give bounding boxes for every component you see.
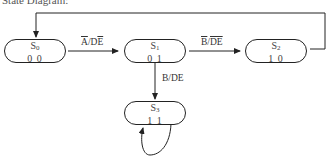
state-diagram: State Diagram: S0 0 0 S1 0 1 S2 1 0 S3 1…: [0, 0, 327, 156]
state-code: 0 0: [5, 53, 65, 64]
state-s3: S3 1 1: [124, 101, 186, 125]
state-subscript: 2: [277, 44, 281, 52]
transition-label-s0-s1: A/DE: [81, 37, 103, 47]
state-code: 1 0: [246, 53, 306, 64]
state-s2: S2 1 0: [245, 39, 307, 63]
state-code: 0 1: [125, 53, 185, 64]
state-code: 1 1: [125, 115, 185, 126]
state-subscript: 0: [36, 44, 40, 52]
arrow-s3-self: [142, 124, 171, 155]
state-s1: S1 0 1: [124, 39, 186, 63]
transition-label-s1-s2: B/DE: [201, 37, 223, 47]
transition-label-s1-s3: B/DE: [162, 73, 184, 83]
state-subscript: 3: [156, 106, 160, 114]
state-subscript: 1: [156, 44, 160, 52]
state-s0: S0 0 0: [4, 39, 66, 63]
